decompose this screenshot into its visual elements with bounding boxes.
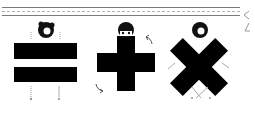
equals-symbol bbox=[14, 22, 77, 101]
edge-chevron-icon bbox=[244, 11, 249, 19]
multiply-symbol bbox=[154, 22, 245, 113]
edge-slash-icon bbox=[245, 23, 250, 31]
symbols-illustration bbox=[0, 0, 255, 120]
plus-symbol bbox=[96, 22, 155, 93]
character-head-icon bbox=[192, 22, 208, 38]
character-head-icon bbox=[38, 22, 55, 39]
character-head-icon bbox=[118, 22, 134, 38]
